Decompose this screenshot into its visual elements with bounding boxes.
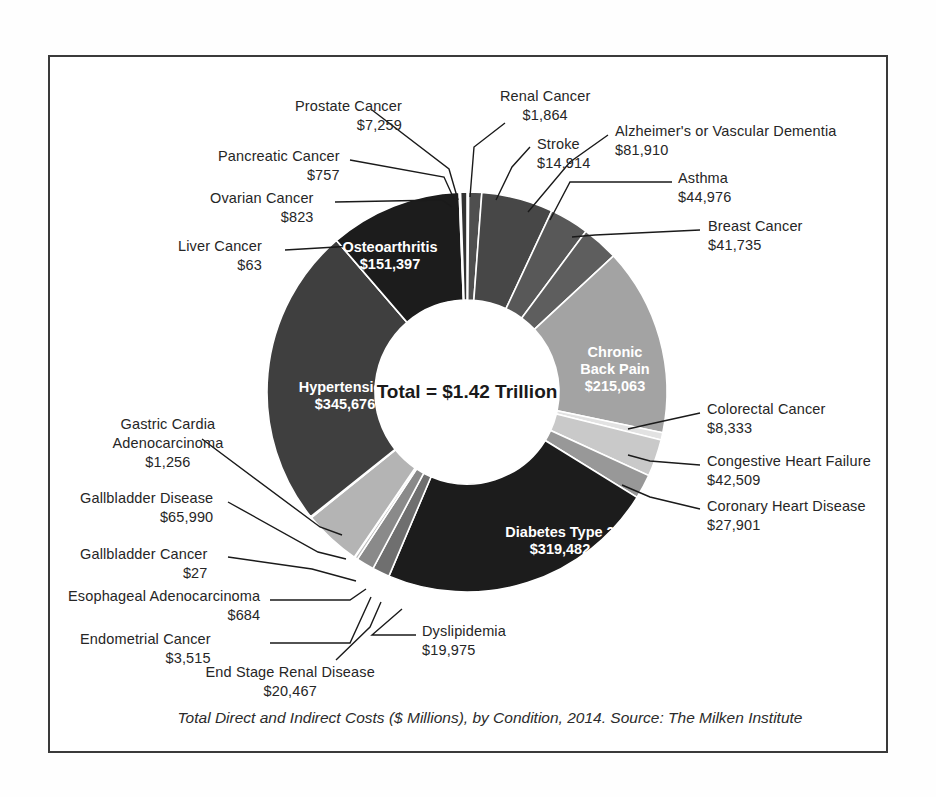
callout-label: Breast Cancer$41,735 [708,217,803,255]
callout-leader-line [270,589,366,600]
callout-leader-line [470,123,505,197]
chart-frame: Osteoarthritis$151,397ChronicBack Pain$2… [48,55,888,753]
callout-name: Congestive Heart Failure [707,452,871,471]
callout-leader-line [550,182,672,220]
callout-value: $20,467 [206,682,375,701]
callout-label: Stroke$14,914 [537,135,590,173]
callout-value: $19,975 [422,641,506,660]
callout-label: Alzheimer's or Vascular Dementia$81,910 [615,122,837,160]
callout-name: Asthma [678,169,731,188]
callout-value: $1,256 [113,453,224,472]
callout-value: $823 [210,208,314,227]
callout-leader-line [372,609,416,635]
callout-name: Colorectal Cancer [707,400,826,419]
callout-name: Dyslipidemia [422,622,506,641]
callout-label: Gastric Cardia Adenocarcinoma$1,256 [113,415,224,472]
callout-value: $42,509 [707,471,871,490]
callout-name: End Stage Renal Disease [206,663,375,682]
callout-label: Gallbladder Cancer$27 [80,545,208,583]
callout-leader-line [270,597,371,643]
callout-name: Stroke [537,135,590,154]
callout-name: Gallbladder Disease [80,489,213,508]
callout-name: Prostate Cancer [295,97,402,116]
callout-name: Renal Cancer [500,87,590,106]
callout-name: Coronary Heart Disease [707,497,866,516]
callout-value: $1,864 [500,106,590,125]
callout-value: $81,910 [615,141,837,160]
callout-name: Breast Cancer [708,217,803,236]
callout-leader-line [228,557,356,581]
callout-name: Gallbladder Cancer [80,545,208,564]
callout-value: $27,901 [707,516,866,535]
callout-value: $41,735 [708,236,803,255]
callout-label: Asthma$44,976 [678,169,731,207]
callout-label: Pancreatic Cancer$757 [218,147,340,185]
callout-label: Renal Cancer$1,864 [500,87,590,125]
chart-caption: Total Direct and Indirect Costs ($ Milli… [110,709,870,727]
callout-label: End Stage Renal Disease$20,467 [206,663,375,701]
callout-leader-line [350,160,454,199]
callout-value: $27 [80,564,208,583]
callout-label: Gallbladder Disease$65,990 [80,489,213,527]
callout-value: $63 [178,256,262,275]
callout-label: Congestive Heart Failure$42,509 [707,452,871,490]
center-total-label: Total = $1.42 Trillion [377,381,558,402]
callout-value: $3,515 [80,649,211,668]
callout-leader-line [336,602,381,660]
callout-name: Pancreatic Cancer [218,147,340,166]
callout-value: $44,976 [678,188,731,207]
callout-value: $684 [68,606,260,625]
callout-label: Endometrial Cancer$3,515 [80,630,211,668]
callout-label: Esophageal Adenocarcinoma$684 [68,587,260,625]
donut-chart: Osteoarthritis$151,397ChronicBack Pain$2… [50,57,886,751]
callout-name: Gastric Cardia Adenocarcinoma [113,415,224,453]
callout-label: Colorectal Cancer$8,333 [707,400,826,438]
callout-name: Liver Cancer [178,237,262,256]
callout-name: Alzheimer's or Vascular Dementia [615,122,837,141]
callout-label: Coronary Heart Disease$27,901 [707,497,866,535]
callout-value: $7,259 [295,116,402,135]
callout-name: Ovarian Cancer [210,189,314,208]
slice-inline-label: ChronicBack Pain$215,063 [580,344,649,394]
callout-name: Esophageal Adenocarcinoma [68,587,260,606]
callout-label: Prostate Cancer$7,259 [295,97,402,135]
callout-value: $65,990 [80,508,213,527]
callout-value: $14,914 [537,154,590,173]
callout-value: $757 [218,166,340,185]
callout-leader-line [496,147,530,200]
callout-label: Dyslipidemia$19,975 [422,622,506,660]
callout-label: Ovarian Cancer$823 [210,189,314,227]
callout-value: $8,333 [707,419,826,438]
callout-name: Endometrial Cancer [80,630,211,649]
callout-leader-line [572,230,700,237]
callout-label: Liver Cancer$63 [178,237,262,275]
